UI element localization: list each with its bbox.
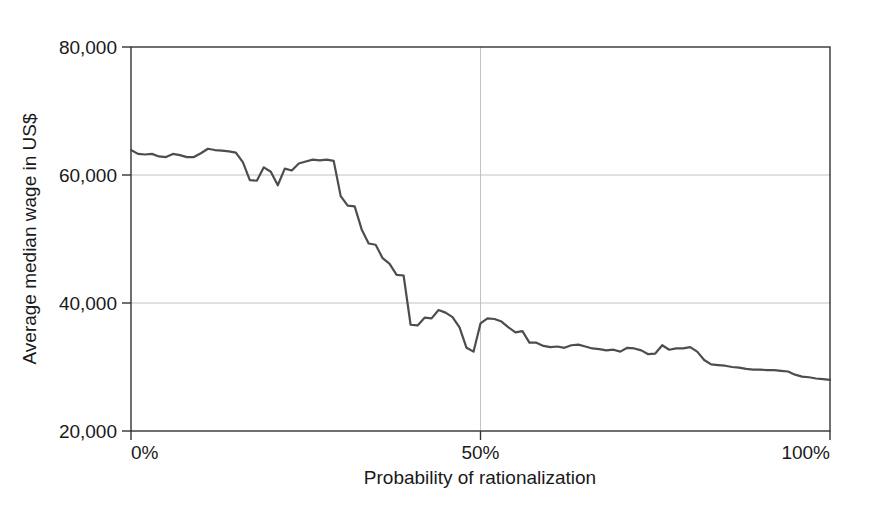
x-axis-tick-label: 50% xyxy=(461,442,499,463)
x-axis-tick-label: 0% xyxy=(131,442,159,463)
x-axis-title: Probability of rationalization xyxy=(364,467,596,488)
chart-figure: 20,00040,00060,00080,000 0%50%100% Avera… xyxy=(0,0,884,513)
y-axis-ticks: 20,00040,00060,00080,000 xyxy=(59,37,131,442)
y-axis-tick-label: 80,000 xyxy=(59,37,117,58)
y-axis-tick-label: 20,000 xyxy=(59,421,117,442)
x-axis-ticks: 0%50%100% xyxy=(131,431,830,463)
line-chart: 20,00040,00060,00080,000 0%50%100% Avera… xyxy=(0,0,884,513)
x-axis-tick-label: 100% xyxy=(781,442,830,463)
y-axis-tick-label: 40,000 xyxy=(59,293,117,314)
y-axis-tick-label: 60,000 xyxy=(59,165,117,186)
y-axis-title: Average median wage in US$ xyxy=(19,113,40,364)
